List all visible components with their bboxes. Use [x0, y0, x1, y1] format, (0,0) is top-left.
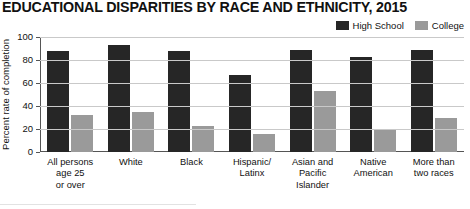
y-tick-mark	[36, 129, 40, 130]
gridline	[40, 83, 464, 84]
legend-label: College	[432, 20, 464, 31]
legend-swatch-icon	[336, 21, 349, 30]
y-tick-mark	[36, 152, 40, 153]
y-tick-label: 100	[17, 32, 33, 42]
bar-group	[343, 37, 404, 152]
y-tick-mark	[36, 83, 40, 84]
legend-item: College	[415, 20, 464, 31]
gridline	[40, 37, 464, 38]
bar-group	[222, 37, 283, 152]
y-axis-title-text: Percent rate of completion	[0, 39, 11, 150]
chart-title: EDUCATIONAL DISPARITIES BY RACE AND ETHN…	[2, 0, 407, 15]
x-axis-label: Hispanic/Latinx	[222, 157, 283, 191]
footer-divider	[0, 204, 196, 205]
bar-groups	[40, 37, 464, 152]
legend-item: High School	[336, 20, 404, 31]
y-tick-label: 60	[22, 78, 33, 88]
x-axis-labels: All personsage 25or overWhiteBlackHispan…	[40, 157, 464, 191]
chart-container: EDUCATIONAL DISPARITIES BY RACE AND ETHN…	[0, 0, 470, 209]
bar-college	[314, 91, 336, 152]
bar-college	[374, 129, 396, 152]
bar-college	[71, 115, 93, 152]
legend-label: High School	[353, 20, 404, 31]
bar-high-school	[411, 50, 433, 152]
x-axis-label-line: Asian and	[283, 157, 342, 168]
x-axis-label-line: More than	[404, 157, 463, 168]
bar-high-school	[168, 51, 190, 152]
y-tick-label: 20	[22, 124, 33, 134]
y-tick-label: 40	[22, 101, 33, 111]
bar-high-school	[290, 50, 312, 152]
bar-high-school	[350, 57, 372, 152]
bar-group	[161, 37, 222, 152]
x-axis-label-line: or over	[41, 180, 100, 191]
x-axis-label-line: Native	[344, 157, 403, 168]
bar-high-school	[47, 51, 69, 152]
gridline	[40, 106, 464, 107]
bar-group	[282, 37, 343, 152]
bar-group	[40, 37, 101, 152]
x-axis-label-line: Hispanic/	[223, 157, 282, 168]
x-axis-label-line: Black	[162, 157, 221, 168]
plot-area: 100806040200	[40, 37, 464, 152]
gridline	[40, 129, 464, 130]
x-axis-label: White	[101, 157, 162, 191]
x-axis-label: More thantwo races	[403, 157, 464, 191]
y-tick-mark	[36, 106, 40, 107]
legend-swatch-icon	[415, 21, 428, 30]
chart-legend: High SchoolCollege	[336, 20, 464, 31]
x-axis-label: Asian andPacificIslander	[282, 157, 343, 191]
bar-college	[132, 112, 154, 152]
y-tick-label: 80	[22, 55, 33, 65]
x-axis-label-line: Islander	[283, 180, 342, 191]
bar-group	[403, 37, 464, 152]
bar-college	[253, 134, 275, 152]
y-tick-label: 0	[28, 147, 33, 157]
bar-high-school	[229, 75, 251, 152]
bar-college	[435, 118, 457, 153]
x-axis-label-line: two races	[404, 168, 463, 179]
bar-high-school	[108, 45, 130, 152]
x-axis-label-line: All persons	[41, 157, 100, 168]
gridline	[40, 60, 464, 61]
x-axis-label-line: American	[344, 168, 403, 179]
x-axis-label: NativeAmerican	[343, 157, 404, 191]
x-axis-label-line: Pacific	[283, 168, 342, 179]
x-axis-label-line: age 25	[41, 168, 100, 179]
x-axis-label-line: White	[102, 157, 161, 168]
y-tick-mark	[36, 37, 40, 38]
bar-group	[101, 37, 162, 152]
y-tick-mark	[36, 60, 40, 61]
x-axis-label: All personsage 25or over	[40, 157, 101, 191]
x-axis-label-line: Latinx	[223, 168, 282, 179]
x-axis-label: Black	[161, 157, 222, 191]
y-axis-title: Percent rate of completion	[0, 37, 12, 152]
